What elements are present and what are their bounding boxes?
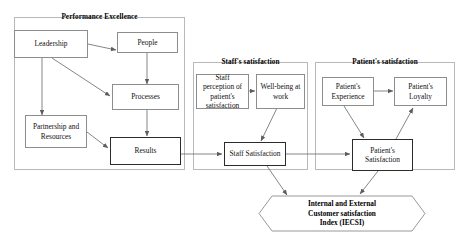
node-processes[interactable]: Processes <box>112 84 179 110</box>
node-partnership-and-resources[interactable]: Partnership and Resources <box>25 115 87 148</box>
node-well-being-at-work-label: Well-being at work <box>259 82 302 100</box>
outcome-line-3: Index (IECSI) <box>308 218 376 228</box>
node-patient-satisfaction[interactable]: Patient's Satisfaction <box>352 139 413 171</box>
node-staff-perception-label: Staff perception of patient's satisfacti… <box>199 73 246 109</box>
node-processes-label: Processes <box>131 92 160 101</box>
outcome-iecsi-label: Internal and External Customer satisfact… <box>258 195 426 232</box>
node-results-label: Results <box>135 146 157 155</box>
node-results[interactable]: Results <box>110 137 181 165</box>
node-staff-satisfaction-label: Staff Satisfaction <box>230 149 281 158</box>
outcome-line-1: Internal and External <box>308 199 376 209</box>
panel-staff-satisfaction-title: Staff's satisfaction <box>193 58 308 66</box>
diagram-canvas: Performance Excellence Staff's satisfact… <box>0 0 469 246</box>
panel-patient-satisfaction-title: Patient's satisfaction <box>315 58 455 66</box>
node-patient-experience-label: Patient's Experience <box>325 82 371 100</box>
node-patient-experience[interactable]: Patient's Experience <box>322 77 374 106</box>
node-staff-satisfaction[interactable]: Staff Satisfaction <box>224 142 286 166</box>
node-partnership-and-resources-label: Partnership and Resources <box>28 122 84 140</box>
node-people[interactable]: People <box>117 32 178 53</box>
node-patient-satisfaction-label: Patient's Satisfaction <box>355 146 410 164</box>
outcome-iecsi[interactable]: Internal and External Customer satisfact… <box>258 195 426 232</box>
node-leadership-label: Leadership <box>35 39 68 48</box>
panel-performance-excellence-title: Performance Excellence <box>14 13 185 21</box>
node-well-being-at-work[interactable]: Well-being at work <box>256 74 305 109</box>
node-leadership[interactable]: Leadership <box>14 30 88 58</box>
node-patient-loyalty-label: Patient's Loyalty <box>397 82 444 100</box>
node-people-label: People <box>137 38 157 47</box>
outcome-line-2: Customer satisfaction <box>308 209 376 219</box>
node-staff-perception[interactable]: Staff perception of patient's satisfacti… <box>196 74 249 109</box>
node-patient-loyalty[interactable]: Patient's Loyalty <box>394 77 447 106</box>
